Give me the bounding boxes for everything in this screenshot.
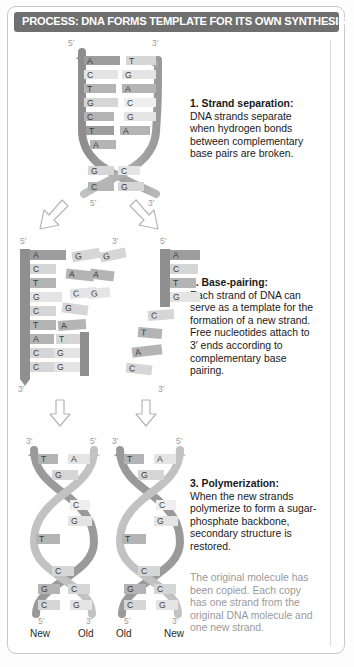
stage2-right-stub-0: G: [99, 247, 127, 262]
stage2-left-free-4: A: [58, 319, 87, 331]
stage1-cross-0-left: G: [88, 166, 114, 175]
stage2-left-free-3: G: [61, 302, 88, 316]
stage3b-bottom-label-right: 3′: [172, 616, 178, 626]
stage2-left-template-3: G: [30, 292, 62, 302]
stage2-right-template-1: C: [170, 264, 198, 274]
stage2-right-template-0: A: [170, 250, 200, 260]
step-3-text: 3. Polymerization: When the new strands …: [190, 478, 318, 554]
stage2-right-stub-label: 3′: [112, 236, 118, 246]
stage3b-right-base-2: G: [154, 516, 178, 526]
stage2-right-bottom-label: 3′: [158, 384, 164, 394]
stage3a-left-base-0: T: [38, 454, 58, 464]
stage-3-helix-left: 3′ 5′ T A G C G T C G C C G 5′ 3′ New Ol…: [24, 436, 104, 636]
stage1-right-base-3: C: [124, 98, 156, 107]
stage2-left-template-2: T: [30, 278, 56, 288]
stage3b-left-base-4: G: [124, 584, 146, 594]
stage1-left-base-2: T: [84, 84, 116, 93]
stage3a-bottom-label-left: 5′: [38, 616, 44, 626]
step-1-body: DNA strands separate when hydrogen bonds…: [190, 111, 303, 160]
stage3b-right-base-4: G: [156, 600, 178, 610]
arrow-separate-right: [128, 198, 164, 232]
stage2-left-paired-0: T: [56, 334, 80, 344]
title-bar: PROCESS: DNA FORMS TEMPLATE FOR ITS OWN …: [14, 12, 339, 32]
step-1-heading: 1. Strand separation:: [190, 98, 318, 111]
stage3a-foot-right: Old: [78, 628, 94, 639]
stage3b-left-base-2: T: [122, 534, 146, 544]
stage2-left-template-7: C: [30, 348, 54, 358]
step-1-text: 1. Strand separation: DNA strands separa…: [190, 98, 318, 161]
stage2-right-template-2: T: [170, 278, 196, 288]
stage3b-left-base-0: T: [124, 454, 144, 464]
stage3b-bottom-label-left: 5′: [124, 616, 130, 626]
step-3-heading: 3. Polymerization:: [190, 478, 318, 491]
stage-3-helix-right: 3′ 5′ T A G C G T C G C C G 5′ 3′ Old Ne…: [110, 436, 190, 636]
stage-2-right-ladder: 3′ 5′ A C T G C T A C G A G 3′: [104, 236, 190, 396]
stage3b-foot-right: New: [164, 628, 184, 639]
stage2-right-template-3: G: [170, 292, 200, 302]
stage3b-label-left: 3′: [112, 436, 118, 446]
stage1-right-base-2: A: [122, 84, 156, 93]
stage3a-left-base-3: C: [52, 566, 74, 576]
stage3a-foot-left: New: [30, 628, 50, 639]
stage3a-left-base-1: G: [52, 470, 78, 480]
stage3a-right-base-3: C: [68, 584, 90, 594]
stage1-left-base-6: A: [90, 140, 116, 149]
step-2-text: 2. Base-pairing: Each strand of DNA can …: [190, 277, 318, 378]
stage3b-label-right: 5′: [176, 436, 182, 446]
stage1-left-base-3: G: [84, 98, 118, 107]
stage1-right-base-5: A: [120, 126, 150, 135]
stage1-right-base-1: G: [122, 70, 156, 79]
stage-1-helix: 5′ 3′ A C T G C T A T G A: [60, 38, 180, 208]
stage2-left-template-0: A: [30, 250, 66, 260]
stage2-right-top-label: 5′: [160, 236, 166, 246]
stage2-left-template-4: C: [30, 306, 56, 316]
stage1-cross-1-right: G: [118, 182, 144, 191]
stage3a-right-base-0: A: [68, 454, 90, 464]
stage2-right-free-3: C: [126, 363, 153, 376]
stage2-left-backbone: [20, 249, 30, 373]
stage2-left-template-5: T: [30, 320, 56, 330]
stage1-left-base-0: A: [84, 56, 120, 65]
stage1-left-base-1: C: [84, 70, 118, 79]
stage1-right-base-0: T: [126, 56, 156, 65]
arrow-polymerize-right: [134, 398, 158, 428]
stage2-right-free-0: C: [148, 309, 175, 321]
stage3b-left-base-1: G: [138, 470, 164, 480]
stage2-left-template-1: C: [30, 264, 56, 274]
stage2-left-template-8: C: [30, 362, 54, 372]
stage2-left-template-6: A: [30, 334, 54, 344]
stage3b-right-base-0: A: [154, 454, 176, 464]
stage1-cross-0-right: C: [118, 166, 140, 175]
step-3-note: The original molecule has been copied. E…: [190, 572, 318, 635]
stage3a-left-base-2: T: [36, 534, 60, 544]
stage3b-left-base-5: C: [124, 600, 146, 610]
stage1-left-base-4: C: [84, 112, 114, 121]
arrow-separate-left: [34, 198, 70, 232]
stage-2-left-ladder: 5′ A C T G C T A C C T G G G A C G A 3′: [18, 236, 104, 396]
stage2-right-free-1: T: [138, 327, 163, 339]
stage3a-label-left: 3′: [26, 436, 32, 446]
stage2-left-bottom-label: 3′: [18, 384, 24, 394]
step-3-body: When the new strands polymerize to form …: [190, 491, 316, 552]
stage3a-bottom-label-right: 3′: [86, 616, 92, 626]
stage3a-left-base-4: G: [38, 584, 60, 594]
stage2-right-backbone: [160, 249, 170, 307]
page-title: PROCESS: DNA FORMS TEMPLATE FOR ITS OWN …: [22, 15, 345, 27]
stage3b-right-base-1: C: [156, 500, 176, 510]
stage1-bottom-label-left: 5′: [90, 198, 96, 208]
step-2-body: Each strand of DNA can serve as a templa…: [190, 290, 313, 377]
stage3b-left-base-3: C: [138, 566, 160, 576]
diagram-page: PROCESS: DNA FORMS TEMPLATE FOR ITS OWN …: [0, 0, 354, 667]
stage1-left-base-5: T: [86, 126, 114, 135]
column-divider: [330, 40, 331, 646]
stage3a-left-base-5: C: [38, 600, 60, 610]
stage3a-right-base-1: C: [70, 500, 90, 510]
arrow-polymerize-left: [48, 398, 72, 428]
stage3a-right-base-4: G: [70, 600, 92, 610]
stage3b-foot-left: Old: [116, 628, 132, 639]
stage2-right-free-2: A: [132, 344, 163, 358]
stage2-left-top-label: 5′: [20, 236, 26, 246]
stage1-right-base-4: G: [124, 112, 156, 121]
stage2-left-new-backbone: [80, 332, 89, 376]
stage2-left-paired-1: G: [54, 348, 80, 358]
